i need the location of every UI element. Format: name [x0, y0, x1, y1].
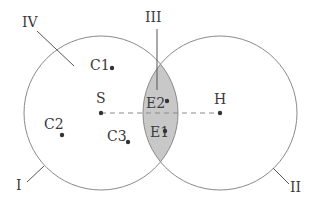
- label-i: I: [16, 177, 22, 193]
- point-c1: [110, 66, 114, 70]
- leader-iv: [37, 31, 74, 66]
- leader-i: [27, 166, 44, 182]
- venn-diagram: IV III I II C1 S C2 C3 E2 E1 H: [0, 0, 323, 203]
- label-h: H: [214, 91, 226, 107]
- label-c3: C3: [107, 128, 127, 144]
- point-s: [99, 111, 103, 115]
- label-c1: C1: [90, 57, 110, 73]
- point-c2: [60, 133, 64, 137]
- label-e1: E1: [150, 124, 169, 140]
- label-ii: II: [290, 179, 301, 195]
- leader-ii: [273, 168, 289, 184]
- point-h: [218, 111, 222, 115]
- label-e2: E2: [146, 95, 165, 111]
- label-iii: III: [145, 9, 162, 25]
- label-s: S: [96, 90, 106, 106]
- point-e2: [165, 99, 169, 103]
- label-iv: IV: [22, 14, 39, 30]
- label-c2: C2: [44, 116, 64, 132]
